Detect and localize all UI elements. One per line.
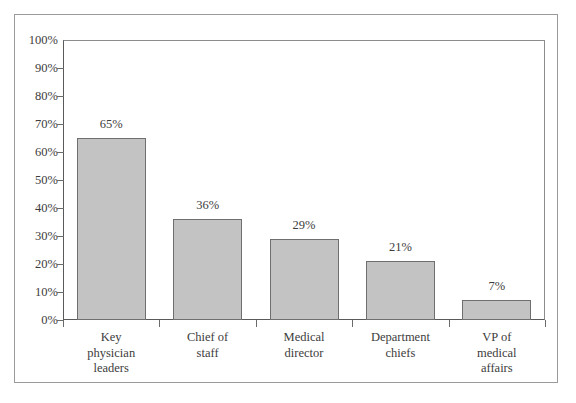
x-axis-category-label: Chief ofstaff bbox=[153, 330, 263, 361]
bar-value-label: 29% bbox=[264, 219, 344, 232]
y-axis-tick-label: 0% bbox=[12, 314, 58, 326]
y-axis-tick-mark bbox=[57, 96, 64, 97]
y-axis-tick-label: 30% bbox=[12, 230, 58, 242]
y-axis: 0%10%20%30%40%50%60%70%80%90%100% bbox=[8, 40, 58, 320]
y-axis-tick-label: 70% bbox=[12, 118, 58, 130]
category-label-line: chiefs bbox=[345, 346, 455, 362]
y-axis-tick-label: 80% bbox=[12, 90, 58, 102]
y-axis-tick-label: 20% bbox=[12, 258, 58, 270]
y-axis-tick-mark bbox=[57, 208, 64, 209]
category-label-line: Key bbox=[56, 330, 166, 346]
category-label-line: staff bbox=[153, 346, 263, 362]
y-axis-tick-label: 50% bbox=[12, 174, 58, 186]
y-axis-tick-label: 90% bbox=[12, 62, 58, 74]
x-axis-tick-mark bbox=[545, 320, 546, 327]
x-axis-tick-mark bbox=[256, 320, 257, 327]
y-axis-tick-label: 60% bbox=[12, 146, 58, 158]
x-axis-category-label: Keyphysicianleaders bbox=[56, 330, 166, 377]
y-axis-tick-label: 10% bbox=[12, 286, 58, 298]
category-label-line: VP of bbox=[442, 330, 552, 346]
category-label-line: Department bbox=[345, 330, 455, 346]
bar bbox=[366, 261, 435, 320]
y-axis-tick-label: 100% bbox=[12, 34, 58, 46]
bar-value-label: 65% bbox=[71, 118, 151, 131]
category-label-line: physician bbox=[56, 346, 166, 362]
y-axis-tick-mark bbox=[57, 152, 64, 153]
x-axis-tick-mark bbox=[352, 320, 353, 327]
bar bbox=[173, 219, 242, 320]
x-axis-tick-mark bbox=[449, 320, 450, 327]
x-axis-tick-mark bbox=[63, 320, 64, 327]
y-axis-tick-mark bbox=[57, 292, 64, 293]
bar-value-label: 21% bbox=[360, 241, 440, 254]
category-label-line: leaders bbox=[56, 361, 166, 377]
y-axis-tick-mark bbox=[57, 68, 64, 69]
category-label-line: director bbox=[249, 346, 359, 362]
bar-value-label: 36% bbox=[168, 199, 248, 212]
bar-chart-figure: 0%10%20%30%40%50%60%70%80%90%100% 65%36%… bbox=[0, 0, 576, 403]
category-label-line: affairs bbox=[442, 361, 552, 377]
bar bbox=[462, 300, 531, 320]
y-axis-tick-mark bbox=[57, 236, 64, 237]
x-axis-tick-mark bbox=[159, 320, 160, 327]
y-axis-tick-mark bbox=[57, 180, 64, 181]
category-label-line: Chief of bbox=[153, 330, 263, 346]
x-axis-category-label: Medicaldirector bbox=[249, 330, 359, 361]
y-axis-tick-mark bbox=[57, 124, 64, 125]
category-label-line: medical bbox=[442, 346, 552, 362]
bar bbox=[270, 239, 339, 320]
y-axis-tick-label: 40% bbox=[12, 202, 58, 214]
x-axis-category-label: VP ofmedicalaffairs bbox=[442, 330, 552, 377]
bar-value-label: 7% bbox=[457, 280, 537, 293]
x-axis-category-label: Departmentchiefs bbox=[345, 330, 455, 361]
category-label-line: Medical bbox=[249, 330, 359, 346]
y-axis-tick-mark bbox=[57, 264, 64, 265]
bar bbox=[77, 138, 146, 320]
